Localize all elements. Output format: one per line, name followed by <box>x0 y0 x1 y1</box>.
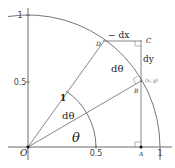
label-origin: O <box>20 148 28 158</box>
x-tick-label-half: 0.5 <box>90 149 103 158</box>
label-radius-one: 1 <box>60 93 66 103</box>
label-dy: dy <box>143 54 155 64</box>
label-dtheta-arc: dθ <box>111 63 123 74</box>
label-dtheta-angle: dθ <box>62 110 74 121</box>
radius-ob <box>28 81 141 147</box>
point-d <box>103 40 105 42</box>
label-minus-dx: − dx <box>108 30 129 40</box>
label-b-coords: (x, y) <box>145 77 158 84</box>
label-c: C <box>146 37 152 45</box>
label-b: B <box>133 87 139 94</box>
point-b <box>140 80 142 82</box>
point-c <box>140 40 142 42</box>
y-tick-label-half: 0.5 <box>14 78 27 87</box>
x-tick-label-one: 1 <box>157 149 162 158</box>
right-angle-c <box>135 41 141 46</box>
unit-circle-diagram: 1 0.5 0.5 1 O A B C D (x, y) 1 θ dθ dθ −… <box>0 0 175 168</box>
point-a <box>140 146 143 149</box>
label-a: A <box>138 150 144 157</box>
label-theta: θ <box>72 130 80 145</box>
y-tick-label-one: 1 <box>17 11 22 20</box>
label-d: D <box>95 40 101 47</box>
